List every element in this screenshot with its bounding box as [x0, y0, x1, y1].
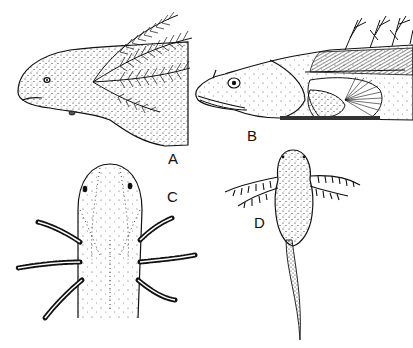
- panel-d-right-gills: [310, 176, 360, 200]
- scientific-illustration: A B C D: [0, 0, 413, 348]
- panel-d-drawing: [225, 150, 360, 340]
- panel-a-drawing: [18, 12, 192, 146]
- panel-d-tail: [286, 240, 300, 340]
- illustration-canvas: [0, 0, 413, 348]
- panel-c-right-eye-icon: [128, 183, 133, 190]
- panel-c-left-eye-icon: [83, 186, 88, 193]
- panel-b-gill-tufts: [345, 16, 413, 50]
- panel-d-left-gills: [225, 177, 278, 208]
- panel-d-body: [275, 150, 313, 246]
- panel-c-right-gills: [138, 218, 195, 300]
- panel-c-left-gills: [18, 222, 82, 318]
- panel-b-label: B: [247, 128, 257, 143]
- panel-d-label: D: [254, 215, 265, 230]
- panel-a-label: A: [168, 151, 178, 166]
- panel-c-label: C: [167, 189, 178, 204]
- panel-a-body: [18, 42, 188, 146]
- panel-b-drawing: [196, 16, 413, 120]
